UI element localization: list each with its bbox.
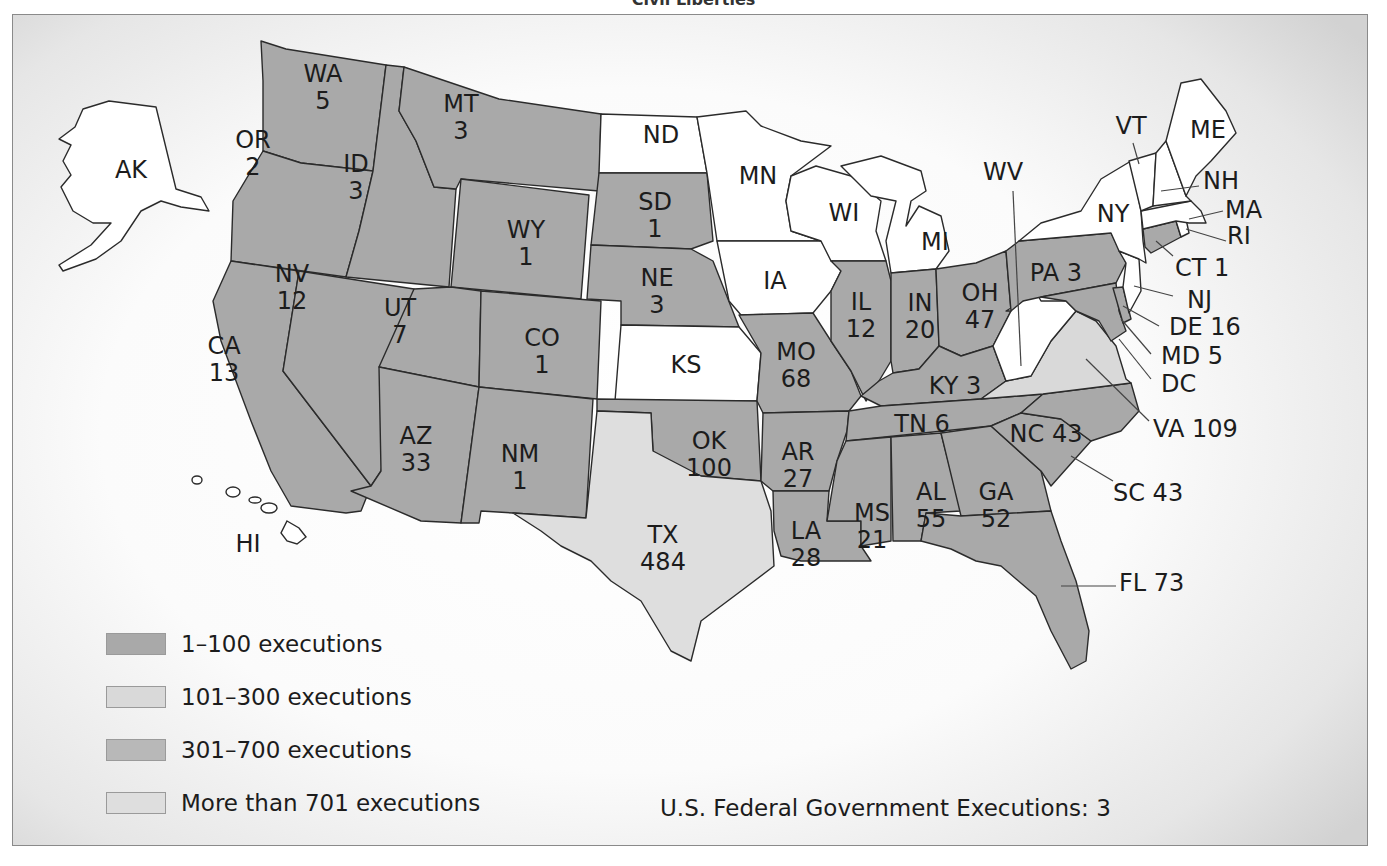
label-il: IL12 — [846, 289, 877, 343]
label-wi: WI — [829, 200, 860, 227]
label-nd: ND — [643, 122, 679, 149]
legend-swatch — [106, 739, 166, 761]
label-ky: KY 3 — [929, 373, 981, 400]
label-md: MD 5 — [1161, 343, 1223, 370]
legend-item-1-100: 1–100 executions — [106, 622, 480, 666]
label-ms: MS21 — [854, 500, 890, 554]
label-ks: KS — [671, 352, 702, 379]
label-vt: VT — [1115, 113, 1146, 140]
legend-label: 1–100 executions — [181, 631, 382, 657]
label-co: CO1 — [524, 325, 560, 379]
label-mo: MO68 — [776, 339, 816, 393]
label-la: LA28 — [791, 518, 822, 572]
label-mi: MI — [921, 229, 949, 256]
label-or: OR2 — [235, 127, 271, 181]
state-fl — [921, 511, 1089, 669]
legend-label: 101–300 executions — [181, 684, 412, 710]
legend-item-701-plus: More than 701 executions — [106, 781, 480, 825]
label-az: AZ33 — [400, 423, 433, 477]
label-tx: TX484 — [640, 522, 686, 576]
label-va: VA 109 — [1153, 416, 1238, 443]
state-mt — [399, 67, 601, 191]
label-ny: NY — [1097, 201, 1130, 228]
state-ak — [59, 101, 209, 271]
legend-item-101-300: 101–300 executions — [106, 675, 480, 719]
label-wy: WY1 — [507, 217, 545, 271]
label-ia: IA — [763, 268, 787, 295]
label-wa: WA5 — [304, 61, 343, 115]
federal-executions-note: U.S. Federal Government Executions: 3 — [660, 795, 1111, 821]
label-pa: PA 3 — [1030, 260, 1082, 287]
label-ak: AK — [115, 157, 147, 184]
label-nh: NH — [1203, 168, 1239, 195]
label-nj: NJ — [1187, 287, 1212, 314]
legend: 1–100 executions 101–300 executions 301–… — [106, 622, 480, 834]
label-wv: WV — [983, 159, 1023, 186]
label-sc: SC 43 — [1113, 480, 1183, 507]
top-caption: Civil Liberties — [0, 0, 1387, 9]
label-in: IN20 — [905, 290, 936, 344]
label-ct: CT 1 — [1175, 255, 1229, 282]
label-dc: DC — [1161, 371, 1196, 398]
label-nc: NC 43 — [1010, 421, 1083, 448]
legend-item-301-700: 301–700 executions — [106, 728, 480, 772]
label-mn: MN — [739, 163, 778, 190]
label-nm: NM1 — [501, 441, 540, 495]
label-id: ID3 — [343, 151, 369, 205]
label-de: DE 16 — [1169, 314, 1241, 341]
legend-label: 301–700 executions — [181, 737, 412, 763]
legend-swatch — [106, 686, 166, 708]
label-al: AL55 — [916, 479, 947, 533]
label-ma: MA — [1225, 197, 1262, 224]
label-tn: TN 6 — [894, 411, 950, 438]
legend-swatch — [106, 633, 166, 655]
label-ut: UT7 — [384, 295, 416, 349]
label-sd: SD1 — [638, 189, 672, 243]
label-ne: NE3 — [640, 265, 673, 319]
label-ar: AR27 — [781, 439, 814, 493]
label-ca: CA13 — [207, 333, 240, 387]
label-nv: NV12 — [275, 261, 309, 315]
label-ri: RI — [1227, 223, 1251, 250]
label-fl: FL 73 — [1119, 570, 1184, 597]
legend-label: More than 701 executions — [181, 790, 480, 816]
label-ok: OK100 — [686, 428, 732, 482]
label-ga: GA52 — [978, 479, 1013, 533]
label-oh: OH47 — [962, 280, 999, 334]
label-me: ME — [1190, 117, 1226, 144]
label-mt: MT3 — [443, 91, 478, 145]
legend-swatch — [106, 792, 166, 814]
label-hi: HI — [235, 531, 260, 558]
